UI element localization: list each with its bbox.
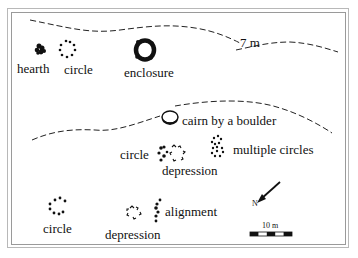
- alignment-symbol: [154, 199, 161, 223]
- label-circle-top: circle: [64, 63, 93, 76]
- label-multiple-circles: multiple circles: [233, 143, 314, 156]
- contour-line-upper: [30, 20, 240, 43]
- label-cairn: cairn by a boulder: [182, 114, 276, 127]
- contour-line-lower: [32, 116, 160, 140]
- north-label: N: [252, 200, 258, 208]
- cairn-symbol: [162, 111, 178, 125]
- north-arrow-icon: [257, 182, 280, 203]
- contour-label-7m: 7 m: [240, 36, 260, 49]
- circle-mid-symbol: [157, 145, 168, 161]
- label-alignment: alignment: [165, 205, 217, 218]
- depression-bottom-symbol: [127, 206, 141, 219]
- scale-bar: [250, 232, 292, 236]
- label-enclosure: enclosure: [124, 66, 174, 79]
- circle-bottom-symbol: [49, 197, 67, 216]
- hearth-symbol: [35, 44, 46, 55]
- circle-top-symbol: [59, 40, 77, 59]
- label-depression-mid: depression: [162, 164, 218, 177]
- label-circle-bottom: circle: [43, 222, 72, 235]
- enclosure-symbol: [135, 40, 154, 60]
- label-circle-mid: circle: [120, 148, 149, 161]
- multiple-circles-symbol: [211, 135, 224, 157]
- label-depression-bottom: depression: [105, 228, 161, 241]
- depression-mid-symbol: [170, 145, 185, 161]
- label-hearth: hearth: [17, 62, 49, 75]
- scale-bar-label: 10 m: [262, 222, 278, 230]
- site-map: [0, 0, 358, 258]
